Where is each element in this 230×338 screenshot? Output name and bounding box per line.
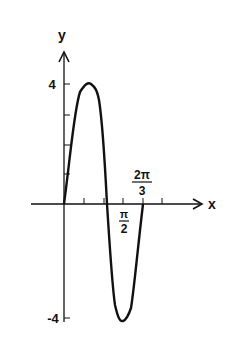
pi-half-denominator: 2 — [121, 222, 128, 236]
sine-graph: y x 4 -4 π 2 2π 3 — [0, 0, 230, 338]
two-pi-third-denominator: 3 — [139, 184, 146, 198]
x-axis-label: x — [208, 196, 216, 212]
pi-half-numerator: π — [120, 208, 129, 220]
y-max-label: 4 — [48, 77, 56, 92]
two-pi-third-numerator: 2π — [134, 168, 150, 182]
x-ticks — [84, 198, 162, 204]
y-axis-label: y — [58, 27, 66, 43]
y-min-label: -4 — [47, 311, 59, 326]
